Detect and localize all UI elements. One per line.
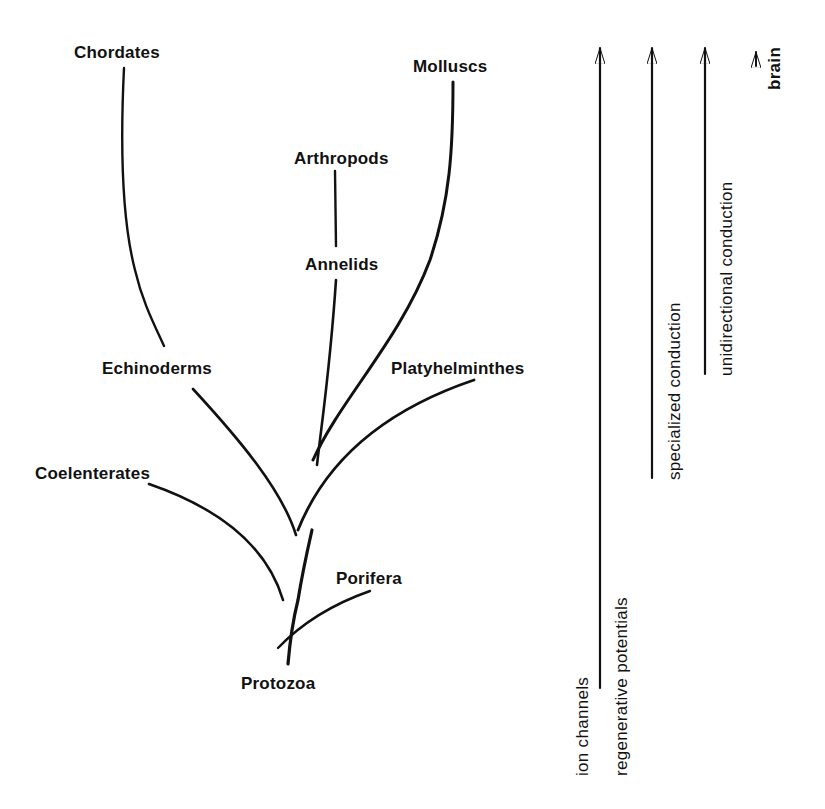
branch-echinoderms [193,389,296,535]
taxon-platyhelminthes: Platyhelminthes [391,360,524,377]
taxon-arthropods: Arthropods [294,150,389,167]
taxon-annelids: Annelids [305,256,378,273]
tree-branches [0,0,825,809]
taxon-echinoderms: Echinoderms [102,360,212,377]
branch-arthropods [335,171,336,246]
taxon-molluscs: Molluscs [413,58,487,75]
taxon-chordates: Chordates [74,44,160,61]
branch-chordates [122,68,164,346]
taxon-porifera: Porifera [336,570,402,587]
taxon-protozoa: Protozoa [241,675,315,692]
trunk-branch [288,530,312,664]
feature-ion-channels: ion channels [574,677,591,776]
branch-annelids [317,280,336,465]
feature-regenerative-potentials: regenerative potentials [613,597,630,776]
phylogeny-diagram: Chordates Molluscs Arthropods Annelids E… [0,0,825,809]
branch-coelenterates [149,484,283,600]
feature-unidirectional-conduction: unidirectional conduction [718,181,735,376]
feature-brain: brain [766,47,783,90]
feature-specialized-conduction: specialized conduction [666,302,683,480]
taxon-coelenterates: Coelenterates [35,465,150,482]
